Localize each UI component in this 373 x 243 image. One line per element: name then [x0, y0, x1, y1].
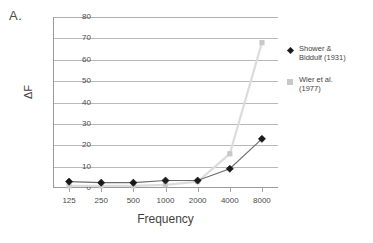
x-axis-tick-mark — [198, 188, 199, 192]
chart-legend: Shower & Biddulf (1931) Wier et al. (197… — [286, 44, 372, 106]
legend-label-line2: Biddulf (1931) — [299, 53, 372, 62]
series-line — [69, 43, 262, 186]
figure-panel-a: A. ΔF 01020304050607080 1252505001000200… — [0, 0, 373, 243]
x-axis-tick-mark — [166, 188, 167, 192]
square-marker-icon — [287, 79, 293, 85]
data-layer — [53, 17, 278, 188]
data-point-square — [227, 151, 232, 156]
legend-label-line1: Shower & — [299, 44, 372, 53]
x-axis-title: Frequency — [53, 212, 278, 226]
data-point-square — [259, 40, 264, 45]
x-axis-tick-mark — [230, 188, 231, 192]
legend-label-line2: (1977) — [299, 84, 372, 93]
diamond-marker-icon — [287, 47, 294, 54]
x-axis-tick-mark — [133, 188, 134, 192]
x-axis-tick-mark — [69, 188, 70, 192]
x-axis-tick-mark — [101, 188, 102, 192]
legend-label-line1: Wier et al. — [299, 75, 372, 84]
legend-entry-wier[interactable]: Wier et al. (1977) — [286, 75, 372, 93]
legend-entry-shower-biddulf[interactable]: Shower & Biddulf (1931) — [286, 44, 372, 62]
x-axis-tick-label: 8000 — [242, 196, 282, 205]
panel-letter: A. — [9, 8, 22, 23]
y-axis-title: ΔF — [22, 72, 34, 112]
x-axis-tick-mark — [262, 188, 263, 192]
